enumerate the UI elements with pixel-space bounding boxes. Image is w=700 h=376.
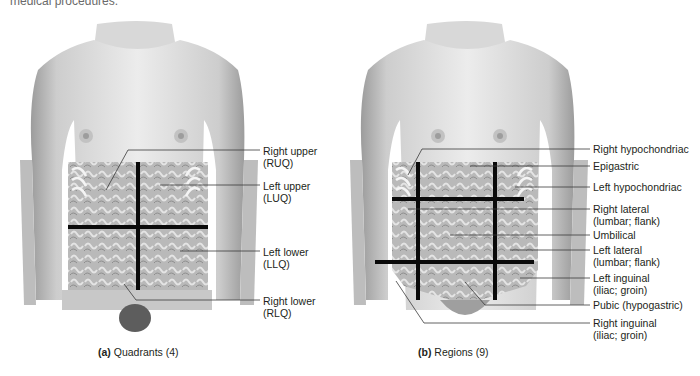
label-left-inguinal: Left inguinal (iliac; groin) [593, 272, 650, 296]
label-left-lateral: Left lateral (lumbar; flank) [593, 244, 660, 268]
label-left-lower-quadrant: Left lower (LLQ) [263, 246, 309, 270]
label-right-inguinal: Right inguinal (iliac; groin) [593, 317, 657, 341]
pubic-area [119, 304, 151, 332]
label-right-lateral: Right lateral (lumbar; flank) [593, 203, 660, 227]
label-right-hypochondriac: Right hypochondriac [593, 143, 689, 155]
label-left-hypochondriac: Left hypochondriac [593, 181, 682, 193]
label-right-lower-quadrant: Right lower (RLQ) [263, 295, 316, 319]
caption-quadrants: (a) Quadrants (4) [98, 346, 179, 358]
label-umbilical: Umbilical [593, 229, 636, 241]
label-right-upper-quadrant: Right upper (RUQ) [263, 145, 317, 169]
panel-regions: Right hypochondriac Epigastric Left hypo… [330, 0, 700, 376]
caption-regions: (b) Regions (9) [418, 346, 489, 358]
label-epigastric: Epigastric [593, 160, 639, 172]
label-pubic-hypogastric: Pubic (hypogastric) [593, 299, 683, 311]
label-left-upper-quadrant: Left upper (LUQ) [263, 180, 310, 204]
abdominal-viscera [392, 162, 538, 300]
panel-quadrants: Right upper (RUQ) Left upper (LUQ) Left … [0, 0, 350, 376]
